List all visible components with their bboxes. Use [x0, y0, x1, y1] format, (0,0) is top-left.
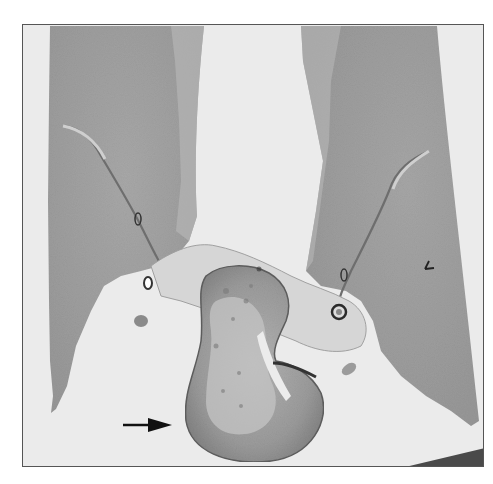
- vessel-left: [144, 277, 152, 289]
- micrograph: [23, 25, 484, 467]
- micrograph-frame: [22, 24, 484, 467]
- vessel-right: [332, 305, 346, 319]
- tissue-fragment: [134, 315, 148, 327]
